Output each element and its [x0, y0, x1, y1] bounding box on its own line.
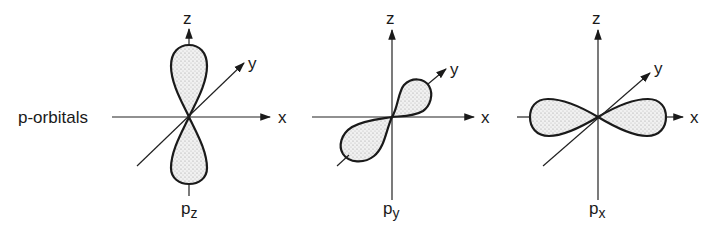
py-upper-lobe: [392, 79, 431, 117]
px-right-lobe: [598, 99, 666, 136]
px-left-lobe: [530, 99, 598, 136]
p-orbitals-diagram: p-orbitals z x y pz z x y py: [0, 0, 718, 240]
y-axis-label: y: [248, 54, 257, 73]
y-axis: [428, 69, 446, 84]
z-axis-label: z: [592, 9, 601, 28]
orbital-label-py: py: [383, 199, 399, 221]
z-axis-label: z: [386, 9, 395, 28]
orbital-label-pz: pz: [181, 199, 197, 221]
py-lower-lobe: [341, 117, 392, 161]
pz-orbital-panel: z x y pz: [112, 9, 287, 221]
orbital-label-px: px: [589, 199, 605, 221]
x-axis-label: x: [481, 108, 490, 127]
y-axis-tail: [337, 155, 349, 166]
pz-upper-lobe: [171, 45, 207, 117]
diagram-title: p-orbitals: [18, 108, 88, 127]
px-orbital-panel: z x y px: [517, 9, 699, 221]
y-axis-label: y: [654, 59, 663, 78]
pz-lower-lobe: [171, 117, 207, 184]
y-axis-label: y: [450, 60, 459, 79]
x-axis-label: x: [278, 108, 287, 127]
x-axis-label: x: [690, 108, 699, 127]
py-orbital-panel: z x y py: [312, 9, 490, 221]
z-axis-label: z: [183, 9, 192, 28]
